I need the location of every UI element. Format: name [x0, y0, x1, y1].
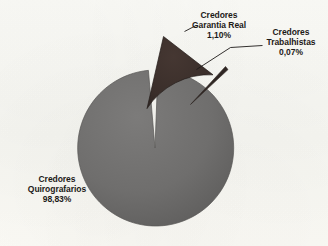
pie-label-quirografarios-line2: Quirografarios: [28, 184, 86, 194]
pie-label-quirografarios-line1: Credores: [39, 174, 76, 184]
pie-label-quirografarios: Credores Quirografarios 98,83%: [10, 174, 104, 205]
pie-chart-figure: Credores Garantia Real 1,10% Credores Tr…: [0, 0, 328, 246]
pie-label-garantia-real-line1: Credores: [201, 10, 238, 20]
leader-line-trabalhistas: [197, 46, 263, 70]
pie-label-trabalhistas: Credores Trabalhistas 0,07%: [254, 27, 328, 58]
pie-label-garantia-real-value: 1,10%: [207, 30, 231, 40]
pie-label-trabalhistas-line2: Trabalhistas: [266, 37, 315, 47]
pie-label-quirografarios-value: 98,83%: [43, 194, 72, 204]
pie-label-garantia-real: Credores Garantia Real 1,10%: [178, 10, 260, 41]
pie-label-trabalhistas-line1: Credores: [273, 27, 310, 37]
pie-label-garantia-real-line2: Garantia Real: [192, 20, 246, 30]
pie-label-trabalhistas-value: 0,07%: [279, 47, 303, 57]
